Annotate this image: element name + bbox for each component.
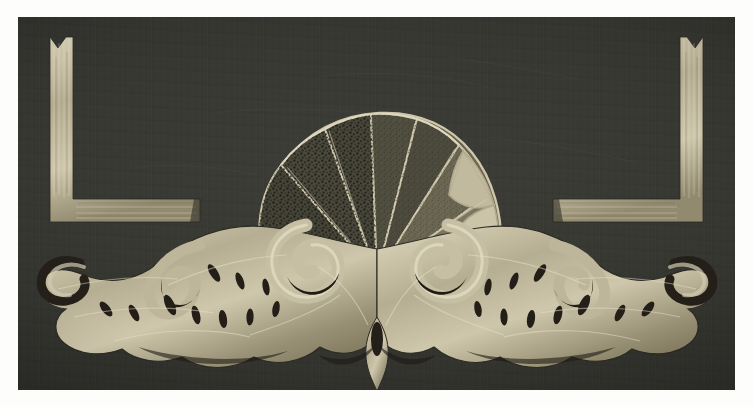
decorative-panel xyxy=(18,17,735,390)
ornament-artwork xyxy=(18,17,735,390)
right-corner-band xyxy=(553,37,703,222)
image-canvas: Carved and gilded decorative overdoor pa… xyxy=(0,0,754,407)
acanthus-scrollwork xyxy=(40,225,713,390)
left-corner-band xyxy=(27,37,200,225)
